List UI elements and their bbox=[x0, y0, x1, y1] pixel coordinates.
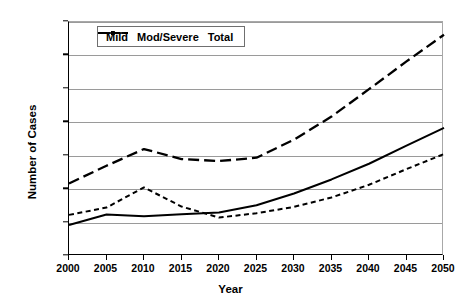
legend-label-total: Total bbox=[205, 31, 239, 43]
legend-swatch-total bbox=[98, 27, 128, 39]
legend-item-total: Total bbox=[205, 27, 239, 46]
series-layer bbox=[69, 22, 444, 256]
x-axis-tick-mark bbox=[143, 255, 144, 260]
x-axis-tick-mark bbox=[181, 255, 182, 260]
legend-item-mod-severe: Mod/Severe bbox=[134, 27, 205, 46]
x-axis-title: Year bbox=[0, 283, 461, 295]
x-axis-tick-mark bbox=[293, 255, 294, 260]
x-axis-tick-mark bbox=[443, 255, 444, 260]
x-axis-tick-mark bbox=[331, 255, 332, 260]
x-axis-tick-mark bbox=[406, 255, 407, 260]
y-axis-title: Number of Cases bbox=[26, 72, 38, 232]
plot-area bbox=[68, 21, 443, 255]
series-line-total bbox=[69, 35, 444, 184]
x-axis-tick-mark bbox=[218, 255, 219, 260]
chart-container: Number of Cases 010000002000000300000040… bbox=[0, 0, 461, 303]
x-axis-tick-mark bbox=[106, 255, 107, 260]
x-axis-tick-mark bbox=[68, 255, 69, 260]
legend-label-mod-severe: Mod/Severe bbox=[134, 31, 205, 43]
x-axis-tick-mark bbox=[256, 255, 257, 260]
x-axis-tick-mark bbox=[368, 255, 369, 260]
series-line-mod-severe bbox=[69, 154, 444, 218]
legend: Mild Mod/Severe Total bbox=[97, 26, 245, 47]
x-axis-tick-label: 2050 bbox=[413, 262, 461, 274]
